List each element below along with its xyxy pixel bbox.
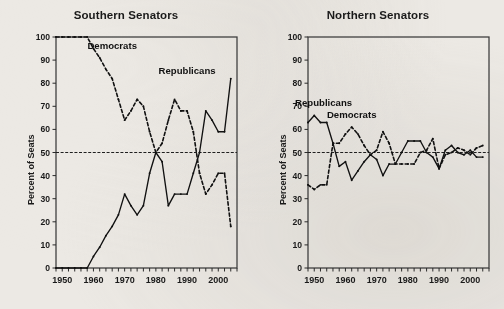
data-point-republicans-1952 (320, 122, 322, 124)
y-tick-label-50: 50 (292, 148, 302, 158)
data-point-republicans-1962 (99, 246, 101, 248)
y-tick-label-60: 60 (292, 124, 302, 134)
y-tick-label-40: 40 (292, 171, 302, 181)
x-tick-label-1960: 1960 (83, 275, 103, 285)
data-point-republicans-1996 (205, 110, 207, 112)
y-tick-label-70: 70 (40, 101, 50, 111)
data-point-democrats-1992 (444, 154, 446, 156)
data-point-democrats-1970 (376, 149, 378, 151)
data-point-democrats-1972 (130, 110, 132, 112)
data-point-republicans-1996 (457, 152, 459, 154)
y-tick-label-30: 30 (292, 194, 302, 204)
y-tick-label-100: 100 (288, 32, 303, 42)
data-point-democrats-1984 (419, 152, 421, 154)
data-point-democrats-1982 (161, 142, 163, 144)
data-point-democrats-1970 (124, 119, 126, 121)
data-point-republicans-1972 (382, 175, 384, 177)
data-point-democrats-1998 (211, 184, 213, 186)
data-point-republicans-1954 (326, 122, 328, 124)
data-point-democrats-1992 (192, 131, 194, 133)
y-tick-label-40: 40 (40, 171, 50, 181)
data-point-republicans-1958 (338, 165, 340, 167)
data-point-democrats-1966 (111, 78, 113, 80)
data-point-republicans-1956 (80, 267, 82, 269)
data-point-republicans-1948 (55, 267, 57, 269)
data-point-republicans-2002 (224, 131, 226, 133)
x-tick-label-1980: 1980 (146, 275, 166, 285)
data-point-republicans-1984 (167, 205, 169, 207)
data-point-democrats-1952 (68, 36, 70, 38)
data-point-republicans-1978 (401, 152, 403, 154)
data-point-republicans-1968 (117, 214, 119, 216)
data-point-democrats-1966 (363, 145, 365, 147)
plot-southern-senators: 0102030405060708090100195019601970198019… (0, 0, 252, 309)
data-point-democrats-1956 (332, 142, 334, 144)
x-tick-label-1970: 1970 (115, 275, 135, 285)
data-point-democrats-1972 (382, 131, 384, 133)
data-point-republicans-1998 (463, 154, 465, 156)
data-point-republicans-1986 (426, 152, 428, 154)
data-point-republicans-1970 (124, 193, 126, 195)
panel-southern-senators: Southern Senators Percent of Seats 01020… (0, 0, 252, 309)
data-point-democrats-1976 (142, 105, 144, 107)
x-tick-label-2000: 2000 (208, 275, 228, 285)
data-point-democrats-1962 (351, 126, 353, 128)
data-point-republicans-1982 (161, 161, 163, 163)
data-point-democrats-2004 (482, 145, 484, 147)
data-point-republicans-1952 (68, 267, 70, 269)
data-point-democrats-1964 (357, 133, 359, 135)
data-point-democrats-2000 (469, 154, 471, 156)
data-point-republicans-2004 (482, 156, 484, 158)
data-point-democrats-2000 (217, 172, 219, 174)
data-point-republicans-1988 (180, 193, 182, 195)
series-annotation-republicans: Republicans (295, 97, 352, 108)
data-point-democrats-1960 (345, 133, 347, 135)
x-tick-label-1950: 1950 (52, 275, 72, 285)
y-tick-label-80: 80 (292, 78, 302, 88)
data-point-republicans-1950 (61, 267, 63, 269)
data-point-republicans-1972 (130, 205, 132, 207)
y-tick-label-80: 80 (40, 78, 50, 88)
x-tick-label-1990: 1990 (177, 275, 197, 285)
data-point-republicans-1980 (407, 140, 409, 142)
data-point-republicans-1992 (192, 172, 194, 174)
data-point-democrats-1956 (80, 36, 82, 38)
series-annotation-republicans: Republicans (159, 65, 216, 76)
data-point-republicans-1988 (432, 156, 434, 158)
data-point-democrats-1948 (55, 36, 57, 38)
data-point-republicans-2002 (476, 156, 478, 158)
data-point-democrats-1958 (86, 36, 88, 38)
data-point-republicans-2000 (469, 149, 471, 151)
data-point-democrats-1998 (463, 149, 465, 151)
data-point-republicans-1966 (111, 225, 113, 227)
data-point-republicans-1964 (105, 235, 107, 237)
data-point-republicans-1994 (199, 152, 201, 154)
data-point-democrats-1986 (426, 149, 428, 151)
data-point-republicans-1984 (419, 140, 421, 142)
plot-northern-senators: 0102030405060708090100195019601970198019… (252, 0, 504, 309)
data-point-democrats-1968 (117, 98, 119, 100)
data-point-republicans-1974 (388, 163, 390, 165)
data-point-republicans-1980 (155, 152, 157, 154)
data-point-democrats-1954 (326, 184, 328, 186)
x-tick-label-1950: 1950 (304, 275, 324, 285)
data-point-republicans-1966 (363, 161, 365, 163)
data-point-republicans-1954 (74, 267, 76, 269)
y-tick-label-0: 0 (45, 263, 50, 273)
data-point-democrats-1994 (199, 172, 201, 174)
data-point-democrats-1994 (451, 152, 453, 154)
data-point-democrats-1980 (407, 163, 409, 165)
data-point-democrats-1986 (174, 98, 176, 100)
data-point-democrats-1990 (186, 110, 188, 112)
data-point-republicans-1962 (351, 179, 353, 181)
panel-northern-senators: Northern Senators Percent of Seats 01020… (252, 0, 504, 309)
data-point-democrats-1952 (320, 184, 322, 186)
data-point-democrats-1968 (369, 154, 371, 156)
data-point-democrats-1990 (438, 168, 440, 170)
data-point-democrats-1978 (401, 163, 403, 165)
data-point-republicans-1998 (211, 119, 213, 121)
series-annotation-democrats: Democrats (327, 109, 377, 120)
data-point-republicans-1950 (313, 115, 315, 117)
x-tick-label-2000: 2000 (460, 275, 480, 285)
data-point-republicans-1960 (345, 161, 347, 163)
